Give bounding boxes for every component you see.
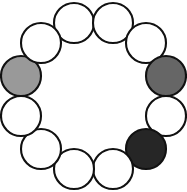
ring-diagram [0, 0, 187, 192]
ring-node-n10 [1, 96, 41, 136]
diagram-canvas [0, 0, 187, 192]
ring-node-n7 [93, 149, 133, 189]
ring-node-n4 [146, 56, 186, 96]
ring-node-n12 [21, 23, 61, 63]
